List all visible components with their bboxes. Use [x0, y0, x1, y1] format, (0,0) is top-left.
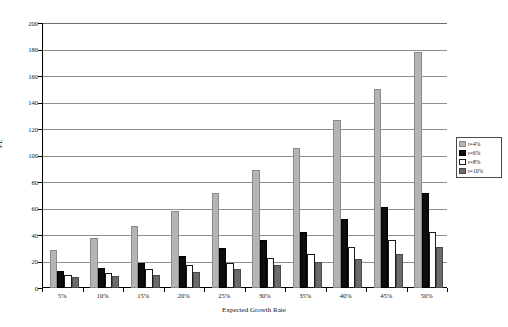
legend-item-label: r=8%: [468, 159, 480, 165]
bar: [307, 254, 314, 288]
bar: [212, 193, 219, 288]
x-axis-tick-label: 10%: [83, 292, 124, 299]
bar: [355, 259, 362, 288]
legend-swatch-icon: [459, 159, 466, 165]
bar: [112, 276, 119, 288]
legend-item: r=8%: [459, 158, 500, 166]
x-axis-tick-label: 5%: [42, 292, 83, 299]
bar: [131, 226, 138, 288]
y-axis-tick-label: 120: [0, 126, 38, 133]
x-axis-tick-label: 25%: [204, 292, 245, 299]
y-axis-tick-label: 80: [0, 179, 38, 186]
bar: [234, 269, 241, 288]
bar: [388, 240, 395, 288]
bar: [348, 247, 355, 288]
bar: [341, 219, 348, 288]
x-axis-tick-label: 30%: [245, 292, 286, 299]
legend: r=4%r=6%r=8%r=10%: [456, 137, 502, 178]
x-axis-tick-mark: [42, 288, 43, 292]
bar: [396, 254, 403, 288]
bar: [171, 211, 178, 288]
x-axis-tick-mark: [83, 288, 84, 292]
bar: [145, 269, 152, 288]
legend-item: r=6%: [459, 149, 500, 157]
bar: [260, 240, 267, 288]
x-axis-tick-label: 45%: [366, 292, 407, 299]
x-axis-tick-mark: [204, 288, 205, 292]
x-axis-tick-label: 50%: [407, 292, 448, 299]
x-axis-label: Expected Growth Rate: [0, 306, 508, 314]
y-axis-tick-label: 20: [0, 258, 38, 265]
bar: [153, 275, 160, 288]
x-axis-tick-mark: [326, 288, 327, 292]
bars-layer: [42, 23, 447, 288]
bar: [300, 232, 307, 288]
y-axis-tick-label: 0: [0, 285, 38, 292]
x-axis-tick-mark: [447, 288, 448, 292]
y-axis-tick-label: 160: [0, 73, 38, 80]
bar: [333, 120, 340, 288]
y-axis-tick-label: 60: [0, 205, 38, 212]
bar: [293, 148, 300, 288]
x-axis-tick-mark: [123, 288, 124, 292]
legend-item-label: r=4%: [468, 141, 480, 147]
bar: [98, 268, 105, 288]
pe-growth-rate-bar-chart: PE 020406080100120140160180200 5%10%15%2…: [0, 0, 508, 327]
x-axis-tick-mark: [164, 288, 165, 292]
x-axis-tick-label: 15%: [123, 292, 164, 299]
bar: [72, 277, 79, 288]
x-axis-tick-mark: [366, 288, 367, 292]
legend-swatch-icon: [459, 168, 466, 174]
x-axis-tick-mark: [407, 288, 408, 292]
bar: [429, 232, 436, 288]
y-axis-tick-label: 200: [0, 20, 38, 27]
legend-item: r=10%: [459, 167, 500, 175]
bar: [267, 258, 274, 288]
x-axis-tick-label: 20%: [164, 292, 205, 299]
bar: [374, 89, 381, 288]
x-axis-tick-mark: [285, 288, 286, 292]
bar: [414, 52, 421, 288]
x-axis-tick-label: 40%: [326, 292, 367, 299]
bar: [57, 271, 64, 288]
bar: [138, 263, 145, 288]
bar: [50, 250, 57, 288]
y-axis-tick-label: 40: [0, 232, 38, 239]
legend-item: r=4%: [459, 140, 500, 148]
legend-swatch-icon: [459, 150, 466, 156]
legend-swatch-icon: [459, 141, 466, 147]
legend-item-label: r=10%: [468, 168, 483, 174]
bar: [381, 207, 388, 288]
bar: [90, 238, 97, 288]
bar: [219, 248, 226, 288]
bar: [315, 262, 322, 289]
bar: [422, 193, 429, 288]
y-axis-tick-label: 140: [0, 99, 38, 106]
bar: [193, 272, 200, 288]
bar: [226, 263, 233, 288]
bar: [252, 170, 259, 288]
bar: [186, 265, 193, 288]
y-axis-label: PE: [0, 139, 4, 148]
bar: [64, 275, 71, 288]
y-axis-tick-label: 100: [0, 152, 38, 159]
bar: [105, 273, 112, 288]
legend-item-label: r=6%: [468, 150, 480, 156]
x-axis-tick-label: 35%: [285, 292, 326, 299]
bar: [179, 256, 186, 288]
bar: [436, 247, 443, 288]
bar: [274, 265, 281, 288]
x-axis-tick-mark: [245, 288, 246, 292]
y-axis-tick-label: 180: [0, 46, 38, 53]
